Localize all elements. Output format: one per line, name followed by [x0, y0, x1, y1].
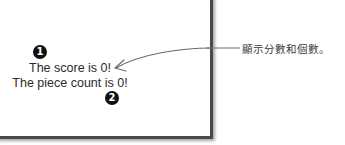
callout-badge-1: 1: [33, 45, 47, 59]
annotation-text: 顯示分數和個數。: [242, 41, 330, 56]
piece-count-label: The piece count is 0!: [0, 76, 170, 90]
score-label: The score is 0!: [0, 61, 170, 75]
callout-badge-2: 2: [105, 91, 119, 105]
